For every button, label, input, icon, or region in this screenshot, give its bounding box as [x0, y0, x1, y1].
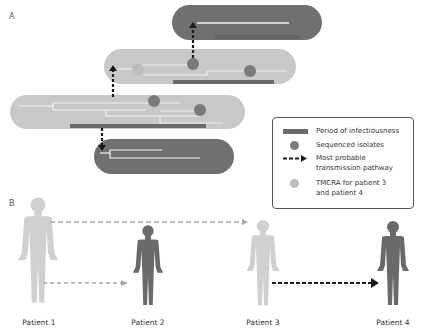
legend-label-line2: and patient 4 — [316, 189, 363, 198]
patient-4-label: Patient 4 — [363, 318, 423, 327]
patient-4-figure — [377, 221, 409, 305]
patient-2-label: Patient 2 — [118, 318, 178, 327]
patient-3-label: Patient 3 — [233, 318, 293, 327]
patient-3-figure — [247, 220, 280, 306]
patient-1-label: Patient 1 — [9, 318, 69, 327]
legend-label: TMCRA for patient 3 — [316, 179, 386, 188]
sequenced-isolate-dot-icon — [290, 141, 299, 150]
arrowheads-b — [121, 219, 379, 288]
patient-2-figure — [133, 225, 163, 305]
legend-label: Most probable — [316, 154, 366, 163]
infectious-period-bar-icon — [283, 129, 308, 134]
tmrca-dot-icon — [290, 179, 299, 188]
transmission-arrows-b — [43, 222, 371, 283]
pill-patient-1 — [10, 95, 245, 129]
pill-patient-2 — [104, 49, 296, 84]
pill-patient-4 — [94, 139, 234, 174]
patient-1-figure — [18, 198, 58, 303]
legend-label: Sequenced isolates — [316, 141, 384, 150]
dashed-arrow-icon — [283, 154, 309, 163]
legend-label-line2: transmission pathway — [316, 164, 393, 173]
legend-box: Period of infectiousness Sequenced isola… — [272, 117, 414, 209]
pill-patient-top — [172, 5, 322, 40]
legend-label: Period of infectiousness — [316, 127, 399, 136]
